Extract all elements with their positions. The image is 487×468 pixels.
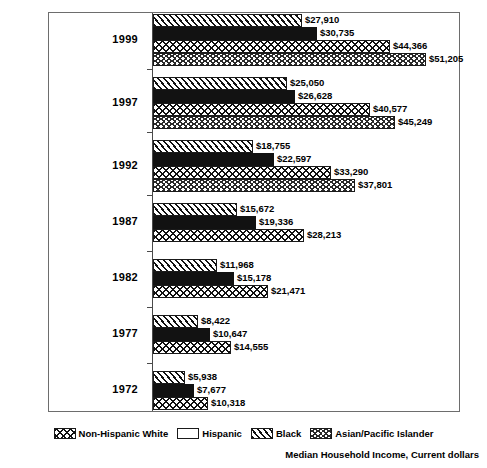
bar-value-label: $40,577 <box>373 102 407 116</box>
bar-row: $10,647 <box>153 328 458 341</box>
bar-value-label: $37,801 <box>358 178 392 192</box>
year-label-1987: 1987 <box>0 215 138 227</box>
bar-value-label: $19,336 <box>259 215 293 229</box>
bar-1997-asian-pacific-islander[interactable] <box>153 116 395 129</box>
bar-1982-hispanic[interactable] <box>153 272 234 285</box>
legend-swatch-icon <box>177 428 199 439</box>
bar-group-1987: 1987$15,672$19,336$28,213 <box>0 203 487 248</box>
chart-legend: Non-Hispanic WhiteHispanicBlackAsian/Pac… <box>0 428 487 439</box>
bar-1992-asian-pacific-islander[interactable] <box>153 179 355 192</box>
bar-1987-black[interactable] <box>153 203 237 216</box>
bar-1972-black[interactable] <box>153 371 185 384</box>
bar-value-label: $7,677 <box>197 383 226 397</box>
bar-value-label: $30,735 <box>320 26 354 40</box>
axis-tick <box>147 251 153 252</box>
year-label-1972: 1972 <box>0 383 138 395</box>
bar-1997-hispanic[interactable] <box>153 90 295 103</box>
legend-label: Black <box>276 428 301 439</box>
bar-row: $15,672 <box>153 203 458 216</box>
bar-1992-hispanic[interactable] <box>153 153 274 166</box>
bar-1987-non-hispanic-white[interactable] <box>153 229 304 242</box>
legend-item-non-hispanic-white[interactable]: Non-Hispanic White <box>54 428 169 439</box>
bar-1999-black[interactable] <box>153 14 302 27</box>
bar-row: $22,597 <box>153 153 458 166</box>
axis-tick <box>147 363 153 364</box>
bar-group-1982: 1982$11,968$15,178$21,471 <box>0 259 487 304</box>
legend-swatch-icon <box>251 428 273 439</box>
bar-1999-asian-pacific-islander[interactable] <box>153 53 426 66</box>
legend-label: Asian/Pacific Islander <box>335 428 433 439</box>
legend-swatch-icon <box>310 428 332 439</box>
legend-label: Hispanic <box>202 428 242 439</box>
legend-item-black[interactable]: Black <box>251 428 301 439</box>
bar-row: $27,910 <box>153 14 458 27</box>
bar-value-label: $27,910 <box>305 13 339 27</box>
year-label-1999: 1999 <box>0 33 138 45</box>
legend-swatch-icon <box>54 428 76 439</box>
bar-value-label: $22,597 <box>277 152 311 166</box>
bar-1999-non-hispanic-white[interactable] <box>153 40 390 53</box>
bar-value-label: $8,422 <box>201 314 230 328</box>
bar-group-1999: 1999$27,910$30,735$44,366$51,205 <box>0 14 487 72</box>
bar-row: $28,213 <box>153 229 458 242</box>
bar-row: $7,677 <box>153 384 458 397</box>
bar-1977-non-hispanic-white[interactable] <box>153 341 231 354</box>
bar-row: $14,555 <box>153 341 458 354</box>
bar-value-label: $44,366 <box>393 39 427 53</box>
bar-group-1972: 1972$5,938$7,677$10,318 <box>0 371 487 416</box>
bar-value-label: $15,672 <box>240 202 274 216</box>
bar-1992-black[interactable] <box>153 140 253 153</box>
year-label-1992: 1992 <box>0 159 138 171</box>
year-label-1977: 1977 <box>0 327 138 339</box>
legend-label: Non-Hispanic White <box>79 428 169 439</box>
bar-group-1977: 1977$8,422$10,647$14,555 <box>0 315 487 360</box>
bar-value-label: $21,471 <box>271 284 305 298</box>
bar-1999-hispanic[interactable] <box>153 27 317 40</box>
bar-value-label: $10,647 <box>213 327 247 341</box>
bar-1972-hispanic[interactable] <box>153 384 194 397</box>
bar-1972-non-hispanic-white[interactable] <box>153 397 208 410</box>
bar-value-label: $15,178 <box>237 271 271 285</box>
bar-value-label: $25,050 <box>290 76 324 90</box>
bar-value-label: $14,555 <box>234 340 268 354</box>
bar-group-1997: 1997$25,050$26,628$40,577$45,249 <box>0 77 487 135</box>
bar-row: $37,801 <box>153 179 458 192</box>
bar-value-label: $28,213 <box>307 228 341 242</box>
bar-value-label: $11,968 <box>220 258 254 272</box>
bar-value-label: $10,318 <box>211 396 245 410</box>
bar-chart: 1999$27,910$30,735$44,366$51,2051997$25,… <box>0 0 487 468</box>
bar-value-label: $51,205 <box>429 52 463 66</box>
bar-row: $10,318 <box>153 397 458 410</box>
bar-row: $33,290 <box>153 166 458 179</box>
bar-group-1992: 1992$18,755$22,597$33,290$37,801 <box>0 140 487 198</box>
bar-1992-non-hispanic-white[interactable] <box>153 166 331 179</box>
bar-row: $45,249 <box>153 116 458 129</box>
chart-annotation: Median Household Income, Current dollars <box>285 449 479 460</box>
bar-row: $51,205 <box>153 53 458 66</box>
bar-value-label: $18,755 <box>256 139 290 153</box>
bar-1997-non-hispanic-white[interactable] <box>153 103 370 116</box>
bar-row: $19,336 <box>153 216 458 229</box>
bar-row: $44,366 <box>153 40 458 53</box>
bar-1982-non-hispanic-white[interactable] <box>153 285 268 298</box>
legend-item-hispanic[interactable]: Hispanic <box>177 428 242 439</box>
bar-value-label: $26,628 <box>298 89 332 103</box>
bar-row: $21,471 <box>153 285 458 298</box>
bar-row: $11,968 <box>153 259 458 272</box>
year-label-1982: 1982 <box>0 271 138 283</box>
bar-row: $15,178 <box>153 272 458 285</box>
bar-1977-hispanic[interactable] <box>153 328 210 341</box>
bar-value-label: $33,290 <box>334 165 368 179</box>
axis-tick <box>147 307 153 308</box>
bar-value-label: $5,938 <box>188 370 217 384</box>
bar-row: $8,422 <box>153 315 458 328</box>
bar-1982-black[interactable] <box>153 259 217 272</box>
legend-item-asian-pacific-islander[interactable]: Asian/Pacific Islander <box>310 428 433 439</box>
bar-1987-hispanic[interactable] <box>153 216 256 229</box>
bar-row: $26,628 <box>153 90 458 103</box>
bar-value-label: $45,249 <box>398 115 432 129</box>
bar-1977-black[interactable] <box>153 315 198 328</box>
bar-1997-black[interactable] <box>153 77 287 90</box>
year-label-1997: 1997 <box>0 96 138 108</box>
